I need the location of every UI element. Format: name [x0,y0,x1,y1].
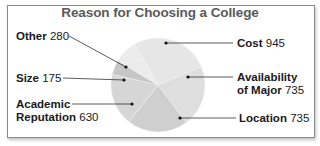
label-academic-value: 630 [79,111,98,123]
label-academic-name-2: Reputation [16,111,76,123]
label-location: Location 735 [239,112,309,125]
dot-availability [186,75,189,78]
dot-cost [164,41,167,44]
label-availability-value: 735 [285,84,304,96]
label-location-name: Location [239,112,287,124]
label-size: Size 175 [16,72,61,85]
label-other-name: Other [16,30,47,42]
dot-other [124,65,127,68]
leader-line-other [69,36,126,67]
label-other-value: 280 [50,30,69,42]
dot-academic [130,102,133,105]
label-location-value: 735 [290,112,309,124]
dot-location [178,116,181,119]
label-cost-value: 945 [266,37,285,49]
dot-size [122,78,125,81]
label-academic: Academic Reputation 630 [16,98,98,124]
label-availability-name-1: Availability [237,71,297,83]
label-cost-name: Cost [237,37,263,49]
label-size-name: Size [16,72,39,84]
label-availability: Availability of Major 735 [237,71,304,97]
label-cost: Cost 945 [237,37,285,50]
label-academic-name-1: Academic [16,98,70,110]
label-other: Other 280 [16,30,69,43]
label-size-value: 175 [42,72,61,84]
label-availability-name-2: of Major [237,84,282,96]
